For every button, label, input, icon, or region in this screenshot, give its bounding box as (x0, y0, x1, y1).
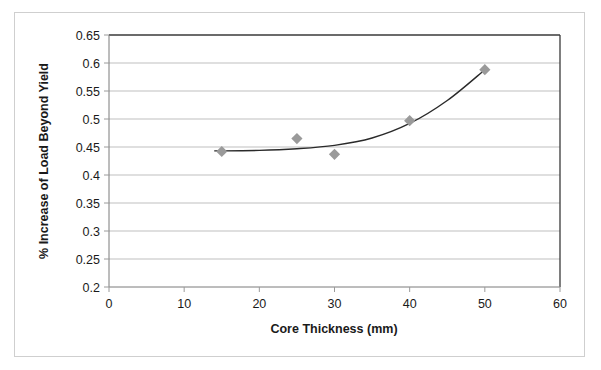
x-axis-ticks (109, 287, 560, 292)
y-tick-label: 0.6 (83, 57, 100, 71)
x-axis-title: Core Thickness (mm) (270, 322, 397, 336)
x-tick-label: 60 (553, 297, 567, 311)
y-tick-label: 0.45 (76, 141, 100, 155)
y-tick-label: 0.65 (76, 29, 100, 43)
x-tick-label: 10 (177, 297, 191, 311)
x-tick-label: 20 (252, 297, 266, 311)
y-axis-title: % Increase of Load Beyond Yield (37, 63, 51, 259)
y-tick-label: 0.2 (83, 281, 100, 295)
x-tick-label: 30 (328, 297, 342, 311)
y-tick-label: 0.25 (76, 253, 100, 267)
y-tick-label: 0.4 (83, 169, 100, 183)
chart-figure: 0.20.250.30.350.40.450.50.550.60.65 0102… (0, 0, 601, 370)
y-tick-label: 0.3 (83, 225, 100, 239)
plot-area-background (109, 35, 560, 287)
y-axis-tick-labels: 0.20.250.30.350.40.450.50.550.60.65 (76, 29, 100, 295)
x-tick-label: 40 (403, 297, 417, 311)
y-tick-label: 0.55 (76, 85, 100, 99)
y-tick-label: 0.5 (83, 113, 100, 127)
x-tick-label: 50 (478, 297, 492, 311)
y-tick-label: 0.35 (76, 197, 100, 211)
x-axis-tick-labels: 0102030405060 (106, 297, 567, 311)
scatter-chart: 0.20.250.30.350.40.450.50.550.60.65 0102… (0, 0, 601, 370)
y-axis-ticks (104, 35, 109, 287)
x-tick-label: 0 (106, 297, 113, 311)
